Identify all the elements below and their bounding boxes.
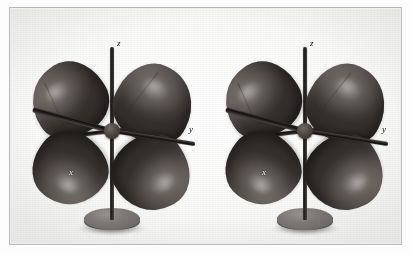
axis-label-x: x [262, 168, 266, 177]
lobe-highlight [41, 77, 73, 107]
lobe-highlight [332, 75, 365, 105]
lobe-highlight [245, 167, 276, 197]
axis-label-x: x [69, 168, 73, 177]
orbital-model-right: z y x [210, 21, 400, 236]
photo-plate: z y x [11, 9, 400, 243]
axis-label-z: z [117, 39, 121, 48]
axis-label-z: z [310, 39, 314, 48]
axis-rod-z [110, 47, 114, 131]
lobe-highlight [146, 167, 178, 197]
lobe-highlight [234, 77, 266, 107]
lobe-highlight [139, 75, 172, 105]
axis-rod-z [303, 47, 307, 131]
photograph: z y x [0, 0, 411, 254]
axis-label-y: y [382, 125, 386, 134]
lobe-highlight [52, 167, 83, 197]
lobe-seam [128, 73, 159, 112]
axis-hub [297, 123, 313, 139]
axis-hub [104, 123, 120, 139]
orbital-model-left: z y x [17, 21, 207, 236]
axis-label-y: y [189, 125, 193, 134]
lobe-seam [321, 73, 352, 112]
lobe-highlight [339, 167, 371, 197]
